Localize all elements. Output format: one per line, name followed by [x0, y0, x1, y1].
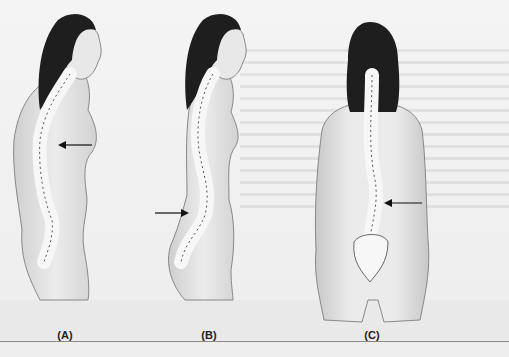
- page-bottom: [0, 342, 509, 357]
- panel-a-label: (A): [57, 329, 72, 341]
- panel-b-figure: [145, 0, 295, 330]
- panel-a-figure: [0, 0, 150, 330]
- spinal-curvature-figure: (A) (B) (C): [0, 0, 509, 357]
- panel-b-label: (B): [201, 329, 216, 341]
- panel-c-figure: [300, 0, 450, 330]
- panel-c-label: (C): [364, 329, 379, 341]
- spine-scoliosis: [370, 75, 376, 240]
